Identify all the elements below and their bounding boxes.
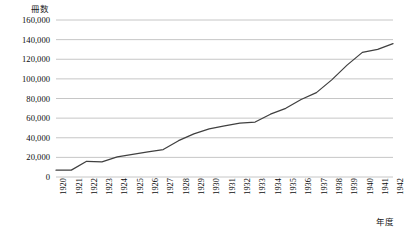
- data-series-line: [56, 44, 393, 171]
- x-axis-tick-labels: 1920192119221923192419251926192719281929…: [56, 178, 393, 218]
- x-tick-label: 1922: [90, 178, 99, 195]
- y-tick-label: 60,000: [26, 114, 50, 123]
- y-axis-tick-labels: 160,000140,000120,000100,00080,00060,000…: [0, 0, 54, 230]
- x-tick-label: 1938: [335, 178, 344, 195]
- y-tick-label: 160,000: [22, 16, 50, 25]
- x-tick-label: 1934: [274, 178, 283, 195]
- y-tick-label: 0: [46, 173, 50, 182]
- x-tick-label: 1936: [304, 178, 313, 195]
- x-tick-label: 1923: [105, 178, 114, 195]
- x-tick-label: 1942: [396, 178, 405, 195]
- x-tick-label: 1931: [228, 178, 237, 195]
- x-tick-label: 1926: [151, 178, 160, 195]
- y-tick-label: 120,000: [22, 55, 50, 64]
- y-tick-label: 20,000: [26, 153, 50, 162]
- x-tick-label: 1941: [381, 178, 390, 195]
- x-tick-label: 1939: [350, 178, 359, 195]
- y-tick-label: 40,000: [26, 133, 50, 142]
- x-tick-label: 1932: [243, 178, 252, 195]
- y-tick-label: 80,000: [26, 94, 50, 103]
- x-tick-label: 1929: [197, 178, 206, 195]
- x-tick-label: 1933: [258, 178, 267, 195]
- y-tick-label: 100,000: [22, 74, 50, 83]
- x-tick-label: 1924: [120, 178, 129, 195]
- x-tick-label: 1928: [182, 178, 191, 195]
- x-tick-label: 1940: [366, 178, 375, 195]
- x-tick-label: 1927: [166, 178, 175, 195]
- y-tick-label: 140,000: [22, 35, 50, 44]
- x-tick-label: 1937: [320, 178, 329, 195]
- x-tick-label: 1921: [75, 178, 84, 195]
- plot-svg: [56, 20, 393, 177]
- plot-area: [56, 20, 393, 177]
- x-tick-label: 1925: [136, 178, 145, 195]
- x-tick-label: 1920: [59, 178, 68, 195]
- x-axis-title: 年度: [376, 217, 394, 227]
- x-tick-label: 1935: [289, 178, 298, 195]
- x-tick-label: 1930: [212, 178, 221, 195]
- gridlines: [56, 20, 393, 177]
